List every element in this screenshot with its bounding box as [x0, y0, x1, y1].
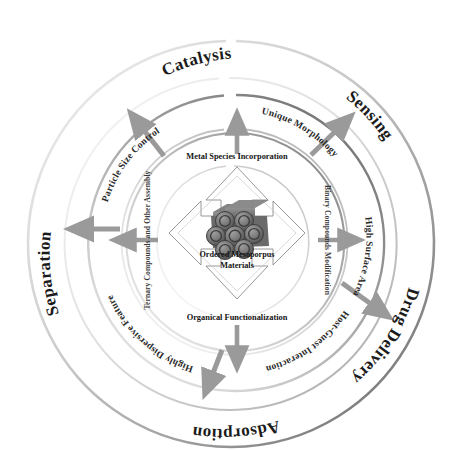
core-arrow-label-bottom: Organical Functionalization: [187, 313, 288, 322]
core-arrow-label-right: Binary Compounds Modification: [323, 185, 332, 296]
outer-ring-label-separation-text: Separation: [35, 230, 63, 318]
core-arrow-label-top: Metal Species Incorporation: [186, 152, 288, 161]
outer-ring-label-catalysis-text: Catalysis: [159, 43, 233, 80]
core-label-line2: Materials: [220, 261, 254, 270]
core-label-line1: Ordered Mesoporpus: [199, 250, 274, 259]
arrow-to-adsorption: [208, 350, 222, 386]
inner-ring-label-high-surface-area: High Surface Area: [351, 216, 376, 298]
core-arrow-label-left: Ternary Compounds and Other Assembly: [143, 170, 152, 309]
inner-ring-label-high-surface-area-text: High Surface Area: [351, 216, 376, 298]
outer-ring-label-adsorption-text: Adsorption: [191, 417, 282, 444]
mesoporous-materials-diagram: Ordered Mesoporpus Materials Metal Speci…: [0, 0, 473, 450]
diagram-canvas: Ordered Mesoporpus Materials Metal Speci…: [0, 0, 473, 450]
outer-ring-label-catalysis: Catalysis: [159, 43, 233, 80]
outer-ring-label-separation: Separation: [35, 230, 63, 318]
outer-ring-label-adsorption: Adsorption: [191, 417, 282, 444]
